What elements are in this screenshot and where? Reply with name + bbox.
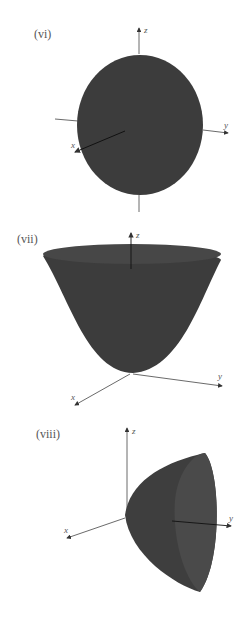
- x-axis-label: x: [70, 392, 75, 402]
- x-axis: [67, 518, 125, 538]
- x-axis-label: x: [70, 140, 75, 150]
- y-axis-label: y: [217, 371, 222, 381]
- paraboloid-surface: [43, 251, 221, 373]
- figure-vii: (vii) z y x: [17, 230, 222, 405]
- x-axis-label: x: [63, 525, 68, 535]
- figure-viii: (viii) z x y: [36, 426, 233, 592]
- y-axis: [203, 130, 228, 133]
- figure-label: (viii): [36, 427, 60, 441]
- z-axis-label: z: [131, 426, 136, 436]
- y-axis-label: y: [223, 120, 228, 130]
- z-axis-label: z: [143, 25, 148, 35]
- figure-label: (vii): [17, 232, 38, 246]
- x-axis: [75, 374, 130, 405]
- paraboloid-rim: [43, 244, 221, 264]
- z-axis-label: z: [135, 230, 140, 240]
- y-axis-label: y: [228, 513, 233, 523]
- ellipsoid-surface: [77, 55, 203, 195]
- y-axis: [133, 374, 222, 386]
- figure-vi: (vi) z x y: [34, 25, 228, 212]
- figure-label: (vi): [34, 27, 51, 41]
- figure-canvas: (vi) z x y (vii) z y x (viii) z x y: [0, 0, 245, 617]
- y-axis-negative: [55, 119, 78, 121]
